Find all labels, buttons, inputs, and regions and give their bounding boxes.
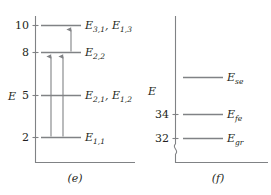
energy-level-figure: E 10 8 5 2 E3,1, E1,3 E2,2 E2,1, E1,2 E1…: [0, 0, 271, 195]
level-label-e22-sub: 2,2: [93, 52, 105, 61]
level-label-sep-5: ,: [105, 89, 112, 102]
panel-e-tick-label-10: 10: [2, 20, 29, 31]
level-label-e11-sub: 1,1: [93, 137, 105, 146]
panel-e: E 10 8 5 2 E3,1, E1,3 E2,2 E2,1, E1,2 E1…: [0, 0, 140, 195]
level-label-ese: Ese: [227, 72, 243, 83]
level-label-e21-sub: 2,1: [93, 95, 105, 104]
level-label-efe-sub: fe: [235, 114, 242, 123]
level-label-e22-base: E: [85, 46, 93, 59]
level-label-e11-base: E: [85, 131, 93, 144]
level-label-e31-e13: E3,1, E1,3: [85, 20, 132, 31]
panel-e-tick-label-5: 5: [2, 90, 29, 101]
level-label-e31-base: E: [85, 19, 93, 32]
level-label-efe-base: E: [227, 108, 235, 121]
level-label-e31-sub: 3,1: [93, 25, 105, 34]
panel-e-tick-label-8: 8: [2, 47, 29, 58]
panel-f: E 34 32 Ese Efe Egr (f): [140, 0, 271, 195]
level-label-egr-base: E: [227, 132, 235, 145]
level-label-e13-base: E: [112, 19, 120, 32]
level-label-ese-base: E: [227, 71, 235, 84]
level-label-e11: E1,1: [85, 132, 105, 143]
level-label-e12-sub: 1,2: [120, 95, 132, 104]
level-label-e12-base: E: [112, 89, 120, 102]
panel-f-caption: (f): [188, 173, 248, 184]
level-label-e21-e12: E2,1, E1,2: [85, 90, 132, 101]
level-label-e21-base: E: [85, 89, 93, 102]
level-label-efe: Efe: [227, 109, 242, 120]
panel-f-tick-label-32: 32: [142, 133, 169, 144]
panel-f-tick-label-34: 34: [142, 109, 169, 120]
panel-f-axis-title: E: [148, 86, 156, 97]
level-label-e13-sub: 1,3: [120, 25, 132, 34]
panel-e-tick-label-2: 2: [2, 132, 29, 143]
panel-f-graphics: [140, 0, 271, 195]
level-label-egr: Egr: [227, 133, 243, 144]
axis-break-squiggle: [174, 144, 177, 154]
level-label-ese-sub: se: [235, 77, 243, 86]
panel-e-caption: (e): [45, 173, 105, 184]
level-label-egr-sub: gr: [235, 138, 243, 147]
level-label-e22: E2,2: [85, 47, 105, 58]
level-label-sep-10: ,: [105, 19, 112, 32]
